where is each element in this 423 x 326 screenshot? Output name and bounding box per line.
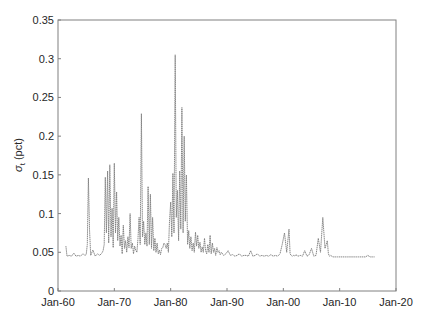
y-axis-label-unit: (pct) <box>12 138 24 160</box>
y-tick-label: 0.15 <box>33 169 54 181</box>
x-tick-label: Jan-90 <box>210 296 244 308</box>
x-tick-label: Jan-70 <box>98 296 132 308</box>
y-tick-label: 0.25 <box>33 91 54 103</box>
x-tick-label: Jan-20 <box>379 296 413 308</box>
plot-background <box>0 0 423 326</box>
x-tick-label: Jan-00 <box>267 296 301 308</box>
x-tick-label: Jan-10 <box>323 296 357 308</box>
y-tick-label: 0.1 <box>39 208 54 220</box>
line-chart: Jan-60Jan-70Jan-80Jan-90Jan-00Jan-10Jan-… <box>0 0 423 326</box>
y-tick-label: 0.2 <box>39 130 54 142</box>
x-tick-label: Jan-80 <box>154 296 188 308</box>
y-tick-label: 0.35 <box>33 14 54 26</box>
y-tick-label: 0.05 <box>33 246 54 258</box>
y-tick-label: 0.3 <box>39 53 54 65</box>
y-tick-label: 0 <box>48 285 54 297</box>
x-tick-label: Jan-60 <box>41 296 75 308</box>
